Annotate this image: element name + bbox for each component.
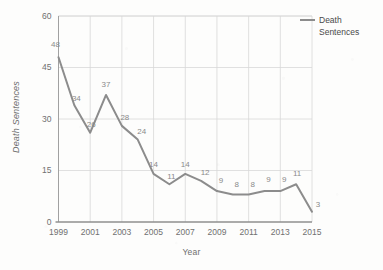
point-label-2015: 3: [310, 200, 326, 209]
point-label-2008: 12: [197, 168, 213, 177]
point-label-2001: 26: [83, 120, 99, 129]
y-tick-45: 45: [30, 62, 52, 72]
legend: Death Sentences: [300, 14, 380, 38]
point-label-2007: 14: [177, 160, 193, 169]
point-label-2000: 34: [68, 94, 84, 103]
x-axis-title: Year: [0, 247, 383, 257]
y-tick-15: 15: [30, 165, 52, 175]
point-label-2012: 9: [260, 175, 276, 184]
point-label-1999: 48: [48, 40, 64, 49]
y-tick-0: 0: [30, 217, 52, 227]
point-label-2009: 9: [213, 176, 229, 185]
point-label-2004: 24: [134, 127, 150, 136]
x-tick-2007: 2007: [169, 227, 201, 237]
legend-line-swatch: [300, 19, 315, 21]
x-tick-2013: 2013: [264, 227, 296, 237]
legend-item-label: Death Sentences: [319, 14, 377, 38]
point-label-2002: 37: [98, 80, 114, 89]
y-tick-60: 60: [30, 11, 52, 21]
legend-item-death-sentences: Death Sentences: [300, 14, 380, 38]
point-label-2006: 11: [163, 172, 179, 181]
point-label-2005: 14: [146, 160, 162, 169]
x-tick-2005: 2005: [138, 227, 170, 237]
point-label-2011: 8: [245, 180, 261, 189]
x-tick-2015: 2015: [296, 227, 328, 237]
death-sentences-line-chart: Death Sentences 015304560 19992001200320…: [0, 0, 383, 270]
x-tick-2009: 2009: [201, 227, 233, 237]
x-tick-1999: 1999: [43, 227, 75, 237]
x-tick-2011: 2011: [233, 227, 265, 237]
x-tick-2003: 2003: [106, 227, 138, 237]
point-label-2014: 11: [289, 169, 305, 178]
y-tick-30: 30: [30, 114, 52, 124]
x-tick-2001: 2001: [74, 227, 106, 237]
point-label-2003: 28: [117, 113, 133, 122]
point-label-2010: 8: [229, 180, 245, 189]
